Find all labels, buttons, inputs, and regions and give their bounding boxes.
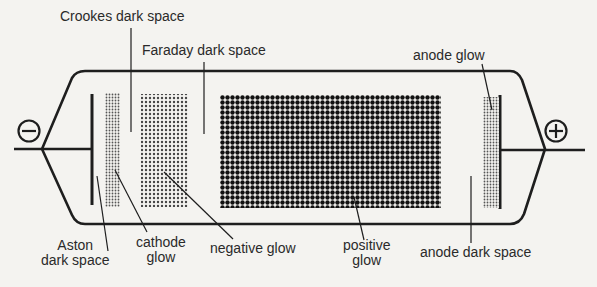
minus-icon <box>19 121 40 142</box>
positive-glow-region <box>220 95 441 208</box>
label-cathode-line2: glow <box>136 250 186 265</box>
label-anode-dark-space: anode dark space <box>420 245 531 260</box>
label-positive-line1: positive <box>343 238 390 253</box>
label-crookes-dark-space: Crookes dark space <box>60 9 185 24</box>
label-positive-glow: positive glow <box>343 238 390 268</box>
label-positive-line2: glow <box>343 253 390 268</box>
label-aston-line1: Aston <box>41 238 109 253</box>
cathode-glow-region <box>105 93 120 207</box>
plus-icon <box>546 121 567 142</box>
negative-glow-region <box>141 94 188 207</box>
label-faraday-dark-space: Faraday dark space <box>142 43 266 58</box>
label-aston-line2: dark space <box>41 253 109 268</box>
label-cathode-glow: cathode glow <box>136 235 186 265</box>
label-aston-dark-space: Aston dark space <box>41 238 109 268</box>
discharge-tube-diagram: Crookes dark space Faraday dark space an… <box>0 0 597 287</box>
anode-glow-region <box>483 97 499 208</box>
label-cathode-line1: cathode <box>136 235 186 250</box>
label-anode-glow: anode glow <box>413 48 485 63</box>
label-negative-glow: negative glow <box>210 241 296 256</box>
